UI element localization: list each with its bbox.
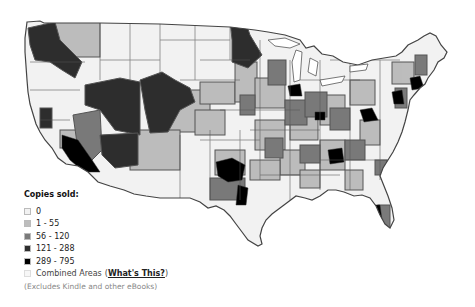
legend-item-121-288: 121 - 288: [24, 243, 168, 256]
swatch-1-55: [24, 220, 31, 227]
legend-label: 56 - 120: [36, 232, 69, 241]
legend-label: 121 - 288: [36, 244, 75, 253]
legend-item-0: 0: [24, 205, 168, 218]
legend-label: 1 - 55: [36, 219, 59, 228]
legend-item-1-55: 1 - 55: [24, 218, 168, 231]
legend-label: 0: [36, 207, 41, 216]
legend-label: 289 - 795: [36, 257, 75, 266]
swatch-56-120: [24, 233, 31, 240]
swatch-289-795: [24, 258, 31, 265]
legend-item-289-795: 289 - 795: [24, 255, 168, 268]
excludes-ebooks-note: (Excludes Kindle and other eBooks): [24, 282, 168, 291]
swatch-0: [24, 208, 31, 215]
whats-this-link[interactable]: What's This?: [108, 269, 165, 278]
combined-areas-label: Combined Areas: [36, 269, 102, 278]
legend-title: Copies sold:: [24, 190, 168, 199]
swatch-combined-areas: [24, 270, 31, 277]
map-legend: Copies sold: 0 1 - 55 56 - 120 121 - 288…: [24, 190, 168, 291]
legend-item-combined-areas: Combined Areas ( What's This? ): [24, 268, 168, 281]
legend-item-56-120: 56 - 120: [24, 230, 168, 243]
swatch-121-288: [24, 245, 31, 252]
paren-close: ): [165, 269, 168, 278]
